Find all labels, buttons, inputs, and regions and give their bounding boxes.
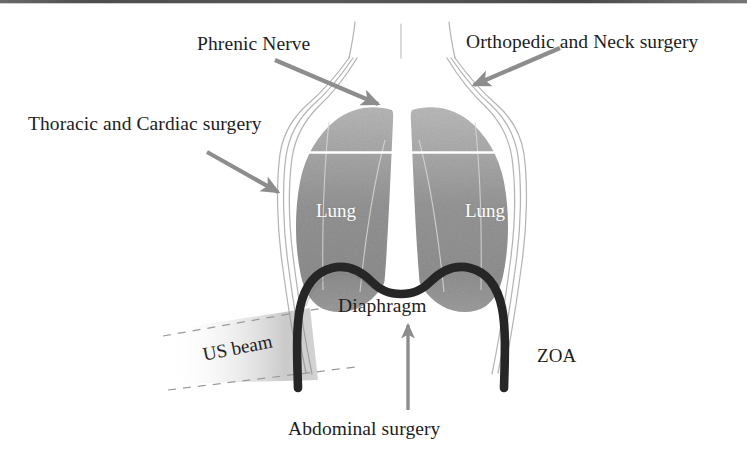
label-zoa: ZOA: [537, 345, 576, 367]
figure-canvas: Phrenic Nerve Orthopedic and Neck surger…: [0, 0, 747, 468]
label-phrenic-nerve: Phrenic Nerve: [197, 33, 310, 55]
orthopedic-neck-arrow: [474, 48, 560, 85]
thorax-diagram: [0, 0, 747, 468]
label-diaphragm: Diaphragm: [338, 295, 427, 317]
label-lung-left: Lung: [316, 200, 356, 222]
label-lung-right: Lung: [465, 200, 505, 222]
phrenic-nerve-arrow: [275, 60, 378, 104]
thoracic-cardiac-arrow: [207, 152, 278, 192]
label-orthopedic-neck-surgery: Orthopedic and Neck surgery: [466, 31, 698, 53]
label-thoracic-cardiac-surgery: Thoracic and Cardiac surgery: [28, 113, 262, 135]
label-abdominal-surgery: Abdominal surgery: [288, 418, 440, 440]
